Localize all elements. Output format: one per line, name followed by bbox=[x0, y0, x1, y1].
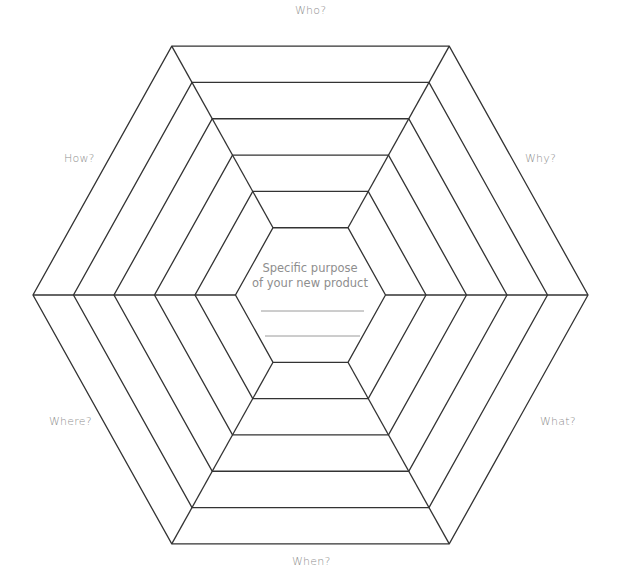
label-when: When? bbox=[292, 555, 330, 568]
spoke-line bbox=[348, 362, 449, 544]
spoke-line bbox=[172, 46, 273, 228]
center-hexagon bbox=[236, 228, 386, 363]
hexagon-rings bbox=[0, 0, 618, 588]
center-prompt-line-2: of your new product bbox=[230, 276, 390, 291]
hexagon-diagram: Who? Why? What? When? Where? How? Specif… bbox=[0, 0, 618, 588]
spoke-line bbox=[172, 362, 273, 544]
label-how: How? bbox=[64, 152, 95, 165]
label-where: Where? bbox=[49, 415, 92, 428]
label-what: What? bbox=[540, 415, 576, 428]
label-why: Why? bbox=[525, 152, 556, 165]
spoke-line bbox=[348, 46, 449, 228]
label-who: Who? bbox=[295, 4, 326, 17]
center-prompt-line-1: Specific purpose bbox=[230, 261, 390, 276]
center-prompt: Specific purpose of your new product bbox=[230, 261, 390, 291]
